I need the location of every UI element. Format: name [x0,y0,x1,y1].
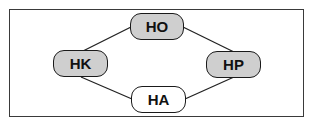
edge-hk-ha [81,77,132,99]
node-hk-label: HK [70,55,92,72]
edge-ho-hp [183,27,234,52]
node-ho-label: HO [146,18,169,35]
edge-hk-ho [83,27,131,51]
node-ha-label: HA [148,91,170,108]
node-hk: HK [53,50,108,77]
node-hp-label: HP [223,56,244,73]
node-ho: HO [130,13,184,40]
node-hp: HP [206,51,261,78]
edge-ha-hp [185,77,234,99]
node-ha: HA [131,86,186,113]
